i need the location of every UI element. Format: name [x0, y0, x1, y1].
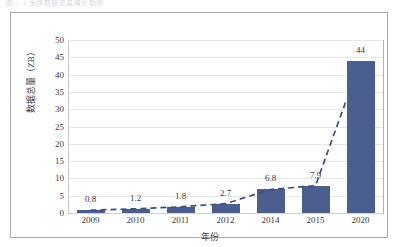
y-axis-tick-label: 45: [34, 53, 64, 62]
bar: [77, 210, 105, 213]
y-axis-tick-label: 10: [34, 174, 64, 183]
y-axis-tick-labels: 50454035302520151050: [31, 40, 64, 213]
x-axis-label: 年份: [11, 232, 397, 242]
bar-value-label: 1.2: [113, 194, 158, 203]
bar: [302, 186, 330, 213]
bar-value-label: 7.9: [293, 171, 338, 180]
y-axis-tick-label: 25: [34, 123, 64, 132]
y-axis-tick-label: 30: [34, 105, 64, 114]
x-axis-tick-label: 2014: [248, 216, 293, 225]
bar: [167, 207, 195, 213]
x-axis-tick-label: 2015: [293, 216, 338, 225]
bar-value-label: 6.8: [248, 174, 293, 183]
x-axis-tick-label: 2009: [68, 216, 113, 225]
bar: [212, 204, 240, 213]
y-axis-tick-label: 20: [34, 140, 64, 149]
bar-value-label: 0.8: [68, 195, 113, 204]
plot-right-border: [383, 40, 384, 214]
y-axis-tick-label: 5: [34, 192, 64, 201]
x-axis-tick-label: 2011: [158, 216, 203, 225]
y-axis-tick-label: 50: [34, 36, 64, 45]
chart-figure: 图 1-1 全球数据总量增长趋势 数据总量（ZB） 50454035302520…: [0, 0, 397, 247]
y-axis-tick-label: 35: [34, 88, 64, 97]
x-axis-tick-label: 2010: [113, 216, 158, 225]
x-axis-tick-label: 2012: [203, 216, 248, 225]
clipped-caption-text: 图 1-1 全球数据总量增长趋势: [6, 0, 176, 7]
bar: [257, 189, 285, 213]
x-axis-tick-label: 2020: [338, 216, 383, 225]
chart-frame: 数据总量（ZB） 50454035302520151050 0.81.21.82…: [10, 12, 388, 238]
bar: [347, 61, 375, 213]
bar-value-label: 44: [338, 46, 383, 55]
y-axis-tick-label: 40: [34, 71, 64, 80]
gridline: [68, 213, 383, 214]
bar-value-label: 1.8: [158, 192, 203, 201]
bar: [122, 209, 150, 213]
y-axis-tick-label: 15: [34, 157, 64, 166]
y-axis-tick-label: 0: [34, 209, 64, 218]
bar-value-label: 2.7: [203, 189, 248, 198]
